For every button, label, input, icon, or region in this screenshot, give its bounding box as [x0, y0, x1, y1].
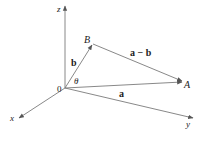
- x-axis-label: x: [9, 113, 14, 123]
- y-axis-label: y: [185, 119, 190, 129]
- y-axis: [65, 88, 193, 118]
- point-b-label: B: [84, 34, 90, 45]
- vector-b-label: b: [71, 57, 77, 68]
- z-axis-label: z: [56, 4, 61, 14]
- vector-b: [65, 45, 92, 88]
- vector-a-minus-b-label: a − b: [130, 47, 152, 58]
- angle-theta-label: θ: [74, 76, 79, 86]
- vector-a-label: a: [119, 88, 124, 99]
- vector-diagram: z x y 0 B A b a a − b θ: [0, 0, 201, 142]
- point-a-label: A: [183, 79, 191, 90]
- origin-label: 0: [57, 84, 62, 94]
